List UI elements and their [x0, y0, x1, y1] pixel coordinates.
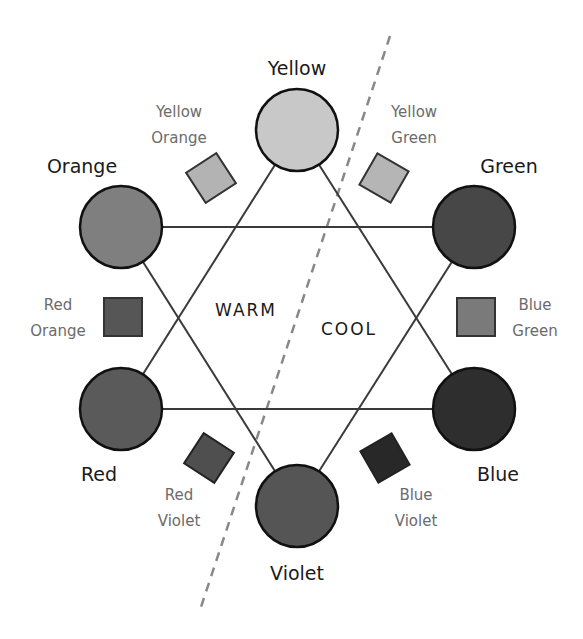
warm-zone-label: WARM	[215, 300, 277, 320]
blue-green-label-2: Green	[512, 322, 557, 340]
blue-violet-swatch	[360, 433, 409, 482]
orange-label: Orange	[47, 155, 117, 177]
violet-swatch	[256, 465, 338, 547]
orange-swatch	[80, 186, 162, 268]
blue-label: Blue	[477, 463, 519, 485]
cool-zone-label: COOL	[321, 319, 377, 339]
yellow-label: Yellow	[267, 57, 327, 79]
red-violet-label-1: Red	[165, 486, 194, 504]
green-label: Green	[480, 155, 538, 177]
blue-violet-label-1: Blue	[399, 486, 432, 504]
red-swatch	[80, 368, 162, 450]
yellow-green-swatch	[359, 153, 408, 202]
yellow-swatch	[256, 89, 338, 171]
red-label: Red	[81, 463, 117, 485]
blue-violet-label-2: Violet	[395, 512, 438, 530]
violet-label: Violet	[270, 562, 324, 584]
yellow-green-label-2: Green	[391, 129, 436, 147]
color-wheel-diagram: Yellow Orange Green Red Blue Violet Yell…	[0, 0, 583, 639]
yellow-green-label-1: Yellow	[390, 103, 437, 121]
yellow-orange-label-2: Orange	[151, 129, 206, 147]
yellow-orange-swatch	[186, 153, 236, 203]
blue-green-label-1: Blue	[518, 296, 551, 314]
green-swatch	[433, 186, 515, 268]
red-violet-label-2: Violet	[158, 512, 201, 530]
red-orange-label-2: Orange	[30, 322, 85, 340]
yellow-orange-label-1: Yellow	[155, 103, 202, 121]
red-violet-swatch	[184, 433, 234, 483]
blue-green-swatch	[457, 298, 495, 336]
red-orange-label-1: Red	[44, 296, 73, 314]
blue-swatch	[433, 368, 515, 450]
red-orange-swatch	[104, 298, 142, 336]
